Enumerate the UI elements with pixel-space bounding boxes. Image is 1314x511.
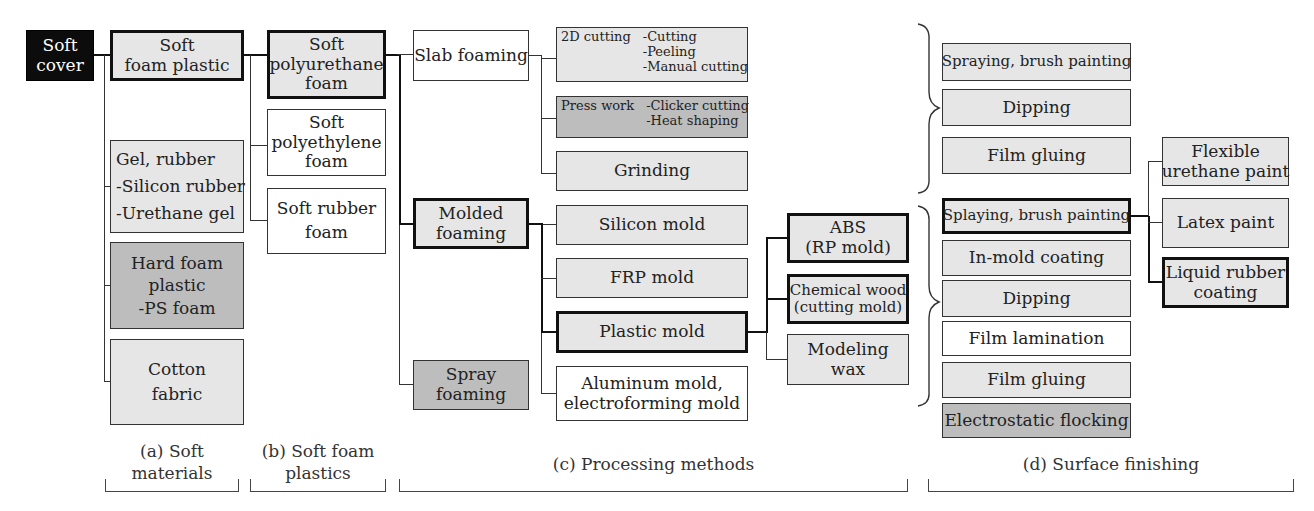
node-label: Spray <box>446 365 496 385</box>
node-label: Gel, rubber <box>116 146 215 173</box>
node-chemical-wood: Chemical wood (cutting mold) <box>787 274 909 324</box>
section-label-surface-finishing: (d) Surface finishing <box>928 453 1294 475</box>
section-label-soft-materials: (a) Soft materials <box>105 440 239 484</box>
node-label: Film gluing <box>987 146 1086 166</box>
node-label: polyethylene <box>271 133 381 153</box>
node-title: Press work <box>561 99 634 114</box>
node-molded-foaming: Molded foaming <box>413 198 529 249</box>
node-label: Cotton <box>148 357 206 382</box>
node-item: -Clicker cutting <box>646 99 749 114</box>
node-cotton-fabric: Cotton fabric <box>110 339 244 425</box>
node-label: fabric <box>152 382 202 407</box>
node-modeling-wax: Modeling wax <box>787 334 909 385</box>
node-film-lamination: Film lamination <box>942 321 1131 356</box>
node-spraying-brush-painting: Spraying, brush painting <box>942 43 1131 81</box>
node-label: ABS <box>830 218 866 238</box>
node-soft-polyurethane-foam: Soft polyurethane foam <box>267 30 386 99</box>
node-label: foaming <box>436 224 506 244</box>
soft-cover-process-diagram: Soft cover Soft foam plastic Gel, rubber… <box>0 0 1314 511</box>
node-label: Soft <box>309 113 344 133</box>
node-slab-foaming: Slab foaming <box>413 30 529 81</box>
section-bracket-surface-finishing <box>928 479 1294 492</box>
node-label: Molded <box>439 204 504 224</box>
node-label: Soft <box>159 36 194 56</box>
node-label: Latex paint <box>1177 213 1275 233</box>
node-silicon-mold: Silicon mold <box>556 205 748 245</box>
node-label: -Urethane gel <box>116 200 235 227</box>
node-label: foam plastic <box>124 56 229 76</box>
node-splaying-brush-painting: Splaying, brush painting <box>942 198 1131 234</box>
node-label: Plastic mold <box>599 322 705 342</box>
node-label: Soft rubber <box>277 197 376 221</box>
node-label: (RP mold) <box>805 238 891 258</box>
section-label-soft-foam-plastics: (b) Soft foam plastics <box>250 440 386 484</box>
node-frp-mold: FRP mold <box>556 258 748 298</box>
section-bracket-soft-materials <box>105 479 239 492</box>
node-gel-rubber: Gel, rubber -Silicon rubber -Urethane ge… <box>110 140 244 233</box>
node-label: cover <box>36 56 84 76</box>
node-label: Silicon mold <box>599 215 706 235</box>
node-soft-rubber-foam: Soft rubber foam <box>267 188 386 254</box>
node-label: Film gluing <box>987 370 1086 390</box>
node-label: urethane paint <box>1162 162 1290 182</box>
node-label: foam <box>305 152 348 172</box>
node-abs-rp-mold: ABS (RP mold) <box>787 213 909 263</box>
node-item: -Heat shaping <box>646 114 739 129</box>
node-label: Flexible <box>1191 142 1260 162</box>
node-in-mold-coating: In-mold coating <box>942 240 1131 276</box>
node-hard-foam-plastic: Hard foam plastic -PS foam <box>110 242 244 329</box>
node-item: -Peeling <box>643 45 696 60</box>
node-aluminum-mold: Aluminum mold, electroforming mold <box>556 366 748 421</box>
node-soft-foam-plastic: Soft foam plastic <box>110 30 244 81</box>
section-label-processing-methods: (c) Processing methods <box>399 453 908 475</box>
node-2d-cutting: 2D cutting -Cutting -Peeling -Manual cut… <box>556 27 748 82</box>
node-plastic-mold: Plastic mold <box>556 311 748 353</box>
node-label: Dipping <box>1002 289 1070 309</box>
node-label: Electrostatic flocking <box>944 411 1128 431</box>
node-spray-foaming: Spray foaming <box>413 360 529 410</box>
node-label: Modeling <box>807 340 888 360</box>
node-label: Liquid rubber <box>1166 263 1285 283</box>
node-label: coating <box>1194 283 1258 303</box>
node-film-gluing-2: Film gluing <box>942 362 1131 398</box>
node-label: Chemical wood <box>790 282 906 299</box>
node-electrostatic-flocking: Electrostatic flocking <box>942 403 1131 438</box>
node-press-work: Press work -Clicker cutting -Heat shapin… <box>556 96 748 138</box>
node-label: Spraying, brush painting <box>942 53 1132 70</box>
node-label: Dipping <box>1002 98 1070 118</box>
node-label: Soft <box>309 35 344 55</box>
node-label: wax <box>831 360 865 380</box>
node-label: Grinding <box>614 161 690 181</box>
node-label: Slab foaming <box>414 46 528 66</box>
section-bracket-soft-foam-plastics <box>250 479 386 492</box>
node-dipping-2: Dipping <box>942 280 1131 317</box>
node-label: foam <box>305 221 348 245</box>
node-label: Splaying, brush painting <box>943 207 1130 224</box>
node-title: 2D cutting <box>561 30 631 45</box>
node-soft-cover: Soft cover <box>26 30 94 81</box>
node-soft-polyethylene-foam: Soft polyethylene foam <box>267 109 386 176</box>
node-label: Hard foam <box>131 252 223 274</box>
node-label: foam <box>305 74 348 94</box>
node-label: Film lamination <box>969 329 1105 349</box>
node-label: In-mold coating <box>969 248 1104 268</box>
node-label: Soft <box>42 36 77 56</box>
node-latex-paint: Latex paint <box>1162 198 1289 248</box>
node-label: polyurethane <box>269 55 383 75</box>
node-label: plastic <box>149 274 206 296</box>
node-label: electroforming mold <box>564 394 740 414</box>
node-label: FRP mold <box>610 268 694 288</box>
node-item: -Manual cutting <box>643 60 748 75</box>
node-label: Aluminum mold, <box>581 374 723 394</box>
node-label: foaming <box>436 385 506 405</box>
node-item: -Cutting <box>643 30 697 45</box>
node-label: -PS foam <box>138 297 215 319</box>
node-grinding: Grinding <box>556 151 748 191</box>
node-label: -Silicon rubber <box>116 173 245 200</box>
brace-group-2-icon <box>918 206 939 406</box>
brace-group-1-icon <box>918 24 939 193</box>
node-liquid-rubber-coating: Liquid rubber coating <box>1162 257 1289 308</box>
section-bracket-processing-methods <box>399 479 908 492</box>
node-dipping-1: Dipping <box>942 89 1131 126</box>
node-flexible-urethane-paint: Flexible urethane paint <box>1162 137 1289 186</box>
